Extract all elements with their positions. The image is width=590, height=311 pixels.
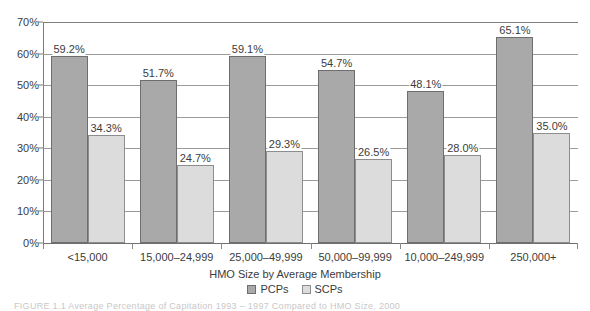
bar-value-label: 26.5% — [357, 146, 390, 158]
x-axis-category-label: <15,000 — [43, 251, 132, 263]
y-axis-tick-mark — [38, 179, 43, 180]
y-axis-tick-label: 30% — [0, 142, 39, 154]
bar-group: 51.7%24.7% — [132, 22, 221, 243]
bar-scps[interactable]: 35.0% — [533, 133, 570, 244]
figure-caption: FIGURE 1.1 Average Percentage of Capitat… — [14, 301, 400, 311]
bar-value-label: 24.7% — [179, 152, 212, 164]
x-axis-tick-cell — [489, 243, 578, 249]
y-axis-tick-label: 70% — [0, 16, 39, 28]
bar-scps[interactable]: 26.5% — [355, 159, 392, 243]
bar-scps[interactable]: 34.3% — [88, 135, 125, 243]
y-axis-tick-mark — [38, 22, 43, 23]
x-axis-category-label: 250,000+ — [489, 251, 578, 263]
y-axis-tick-label: 10% — [0, 205, 39, 217]
bar-group: 59.2%34.3% — [43, 22, 132, 243]
y-axis-tick-mark — [38, 148, 43, 149]
bar-value-label: 51.7% — [142, 67, 175, 79]
x-axis-category-label: 50,000–99,999 — [311, 251, 400, 263]
x-axis-tick-mark — [489, 243, 490, 249]
bar-group: 65.1%35.0% — [489, 22, 578, 243]
bar-value-label: 59.1% — [231, 43, 264, 55]
x-axis-tick-cell — [311, 243, 400, 249]
x-axis-tick-mark — [132, 243, 133, 249]
y-axis-tick-label: 40% — [0, 111, 39, 123]
x-axis-tick-cell — [43, 243, 132, 249]
bar-pcps[interactable]: 59.1% — [229, 56, 266, 243]
x-axis-tick-mark — [43, 243, 44, 249]
legend-label: SCPs — [315, 283, 343, 295]
x-axis-tick-mark — [311, 243, 312, 249]
legend-swatch-icon — [247, 285, 256, 294]
x-axis-labels: <15,00015,000–24,99925,000–49,99950,000–… — [43, 251, 578, 263]
bar-pair: 51.7%24.7% — [132, 22, 221, 243]
legend-swatch-icon — [302, 285, 311, 294]
y-axis-tick-label: 0% — [0, 237, 39, 249]
legend-item-scps[interactable]: SCPs — [302, 283, 343, 295]
y-axis-tick-mark — [38, 85, 43, 86]
x-axis-tick-cell — [132, 243, 221, 249]
bar-scps[interactable]: 24.7% — [177, 165, 214, 243]
x-axis-category-label: 10,000–249,999 — [400, 251, 489, 263]
bar-pcps[interactable]: 51.7% — [140, 80, 177, 243]
bar-value-label: 35.0% — [535, 120, 568, 132]
bar-pcps[interactable]: 54.7% — [318, 70, 355, 243]
bar-pcps[interactable]: 65.1% — [496, 37, 533, 243]
x-axis-tick-cell — [221, 243, 310, 249]
bar-pair: 59.2%34.3% — [43, 22, 132, 243]
bar-value-label: 59.2% — [52, 43, 85, 55]
bar-group: 54.7%26.5% — [311, 22, 400, 243]
x-axis-tick-mark — [577, 243, 578, 249]
bar-value-label: 65.1% — [498, 24, 531, 36]
bar-value-label: 28.0% — [446, 142, 479, 154]
bar-value-label: 34.3% — [89, 122, 122, 134]
bar-pair: 65.1%35.0% — [489, 22, 578, 243]
bar-scps[interactable]: 29.3% — [266, 151, 303, 244]
x-axis-tick-mark — [221, 243, 222, 249]
y-axis-tick-label: 20% — [0, 174, 39, 186]
legend-label: PCPs — [260, 283, 288, 295]
x-axis-tick-cell — [400, 243, 489, 249]
x-axis-category-label: 25,000–49,999 — [221, 251, 310, 263]
plot-area: 59.2%34.3%51.7%24.7%59.1%29.3%54.7%26.5%… — [43, 22, 578, 243]
bar-group: 59.1%29.3% — [221, 22, 310, 243]
bar-scps[interactable]: 28.0% — [444, 155, 481, 243]
bar-pcps[interactable]: 48.1% — [407, 91, 444, 243]
bar-pcps[interactable]: 59.2% — [51, 56, 88, 243]
y-axis-tick-label: 60% — [0, 48, 39, 60]
bar-pair: 54.7%26.5% — [311, 22, 400, 243]
bar-value-label: 48.1% — [409, 78, 442, 90]
bar-value-label: 54.7% — [320, 57, 353, 69]
y-axis-tick-mark — [38, 116, 43, 117]
x-axis-tick-mark — [400, 243, 401, 249]
bar-pair: 48.1%28.0% — [400, 22, 489, 243]
y-axis-tick-mark — [38, 53, 43, 54]
bar-value-label: 29.3% — [268, 138, 301, 150]
legend-item-pcps[interactable]: PCPs — [247, 283, 288, 295]
x-axis-tick-marks — [43, 243, 578, 249]
bar-pair: 59.1%29.3% — [221, 22, 310, 243]
bar-groups: 59.2%34.3%51.7%24.7%59.1%29.3%54.7%26.5%… — [43, 22, 578, 243]
x-axis-title: HMO Size by Average Membership — [0, 268, 590, 280]
chart-legend: PCPsSCPs — [0, 283, 590, 295]
y-axis-tick-mark — [38, 211, 43, 212]
bar-group: 48.1%28.0% — [400, 22, 489, 243]
x-axis-category-label: 15,000–24,999 — [132, 251, 221, 263]
y-axis-tick-label: 50% — [0, 79, 39, 91]
